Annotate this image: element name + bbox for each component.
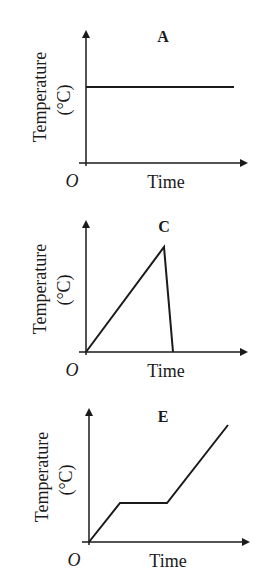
graphs-figure: A Temperature (°C) O Time C Temperature …: [0, 0, 258, 570]
graph-c: C Temperature (°C) O Time: [30, 218, 246, 381]
origin-label: O: [68, 550, 81, 570]
x-axis-label: Time: [149, 551, 186, 570]
graph-e: E Temperature (°C) O Time: [32, 408, 248, 570]
graph-title: A: [157, 28, 169, 45]
origin-label: O: [66, 171, 79, 191]
y-axis-unit: (°C): [56, 464, 77, 495]
y-axis-label: Temperature: [30, 244, 50, 335]
y-axis-label: Temperature: [30, 52, 50, 143]
y-axis-label: Temperature: [32, 432, 52, 523]
origin-label: O: [66, 360, 79, 380]
temperature-curve: [86, 247, 173, 352]
graph-a: A Temperature (°C) O Time: [30, 28, 246, 192]
graph-title: C: [158, 218, 170, 235]
x-axis-label: Time: [147, 172, 184, 192]
temperature-curve: [89, 425, 228, 542]
graph-title: E: [158, 408, 169, 425]
x-axis-label: Time: [147, 361, 184, 381]
y-axis-unit: (°C): [54, 84, 75, 115]
y-axis-unit: (°C): [54, 274, 75, 305]
